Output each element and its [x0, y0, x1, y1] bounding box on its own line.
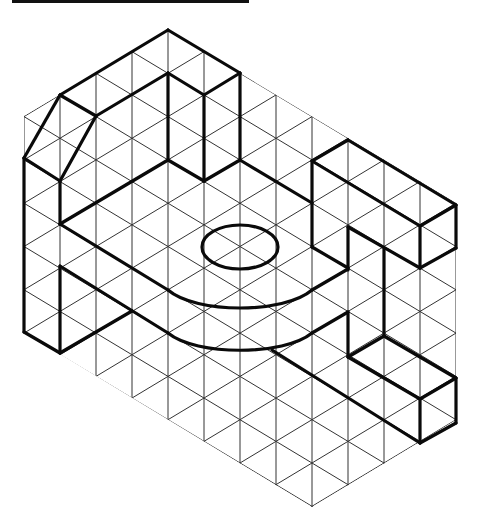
edge-line	[272, 350, 420, 443]
grid-line	[0, 449, 485, 524]
grid-line	[0, 362, 485, 524]
edge-line	[60, 95, 96, 116]
edge-line	[168, 73, 204, 95]
grid-line	[0, 0, 485, 221]
grid-line	[0, 232, 485, 524]
edge-line	[168, 160, 204, 181]
edge-line	[420, 248, 456, 268]
grid-line	[0, 0, 485, 131]
grid-line	[0, 359, 485, 524]
grid-line	[0, 142, 485, 434]
grid-line	[0, 0, 485, 44]
edge-line	[60, 30, 168, 95]
grid-line	[0, 272, 485, 524]
edge-line	[24, 332, 60, 353]
grid-line	[0, 0, 485, 218]
grid-line	[0, 402, 485, 524]
edge-line	[348, 336, 384, 357]
grid-line	[0, 0, 485, 47]
edge-line	[24, 158, 60, 181]
grid-line	[0, 492, 485, 524]
edge-line	[204, 73, 240, 95]
grid-line	[0, 56, 485, 348]
grid-line	[0, 0, 485, 1]
grid-line	[0, 446, 485, 524]
edge-line	[312, 247, 348, 268]
isometric-drawing	[0, 0, 485, 524]
grid-line	[0, 186, 485, 478]
edge-line	[420, 423, 456, 443]
edge-line	[312, 140, 348, 161]
grid-line	[0, 0, 485, 91]
edge-line	[312, 269, 348, 290]
edge-line	[420, 378, 456, 399]
edge-line	[204, 160, 240, 181]
grid-line	[0, 489, 485, 524]
grid-line	[0, 0, 485, 134]
grid-line	[0, 275, 485, 524]
edge-line	[348, 140, 456, 205]
edge-line	[420, 205, 456, 226]
edge-line	[312, 312, 348, 333]
grid-line	[0, 0, 485, 4]
grid-line	[0, 0, 485, 88]
edge-line	[60, 224, 168, 290]
